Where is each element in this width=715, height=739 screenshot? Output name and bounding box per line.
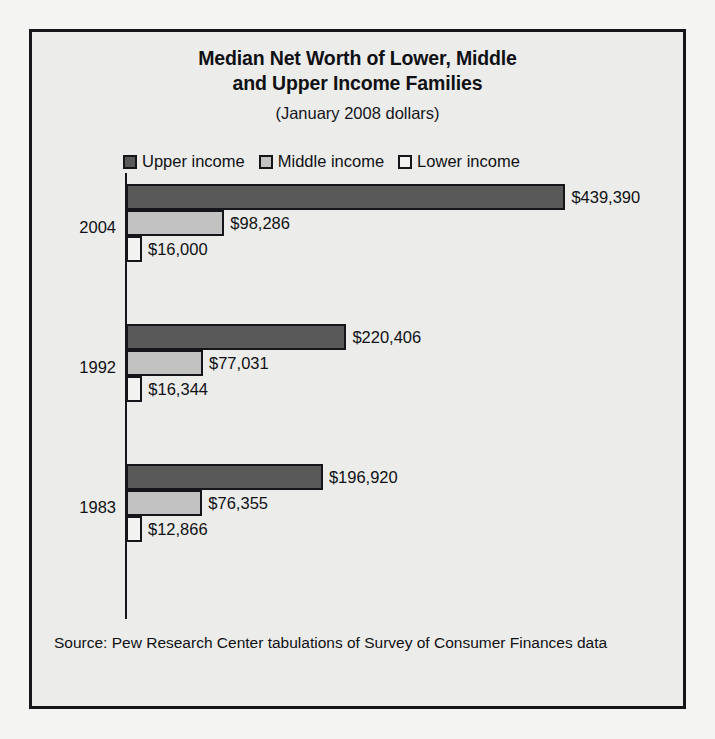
bar-row: $16,000 bbox=[126, 236, 208, 262]
bar-row: $439,390 bbox=[126, 184, 640, 210]
bar-1992-upper[interactable] bbox=[126, 324, 346, 350]
year-label-1992: 1992 bbox=[32, 358, 116, 377]
bar-value-label: $439,390 bbox=[571, 188, 640, 207]
year-label-2004: 2004 bbox=[32, 218, 116, 237]
bar-value-label: $16,344 bbox=[148, 380, 208, 399]
plot-area: 2004$439,390$98,286$16,0001992$220,406$7… bbox=[32, 32, 683, 706]
bar-row: $16,344 bbox=[126, 376, 208, 402]
page-background: Median Net Worth of Lower, Middle and Up… bbox=[0, 0, 715, 739]
source-note: Source: Pew Research Center tabulations … bbox=[54, 632, 664, 653]
bar-row: $12,866 bbox=[126, 516, 208, 542]
bar-value-label: $77,031 bbox=[209, 354, 269, 373]
bar-2004-middle[interactable] bbox=[126, 210, 224, 236]
bar-row: $196,920 bbox=[126, 464, 398, 490]
bar-row: $220,406 bbox=[126, 324, 421, 350]
bar-value-label: $220,406 bbox=[352, 328, 421, 347]
bar-1992-middle[interactable] bbox=[126, 350, 203, 376]
bar-value-label: $76,355 bbox=[208, 494, 268, 513]
bar-value-label: $98,286 bbox=[230, 214, 290, 233]
bar-value-label: $196,920 bbox=[329, 468, 398, 487]
year-label-1983: 1983 bbox=[32, 498, 116, 517]
bar-1983-lower[interactable] bbox=[126, 516, 142, 542]
bar-row: $76,355 bbox=[126, 490, 268, 516]
bar-value-label: $12,866 bbox=[148, 520, 208, 539]
bar-2004-upper[interactable] bbox=[126, 184, 565, 210]
bar-value-label: $16,000 bbox=[148, 240, 208, 259]
bar-2004-lower[interactable] bbox=[126, 236, 142, 262]
bar-row: $98,286 bbox=[126, 210, 290, 236]
bar-1992-lower[interactable] bbox=[126, 376, 142, 402]
chart-figure: Median Net Worth of Lower, Middle and Up… bbox=[29, 29, 686, 709]
bar-row: $77,031 bbox=[126, 350, 269, 376]
bar-1983-middle[interactable] bbox=[126, 490, 202, 516]
bar-1983-upper[interactable] bbox=[126, 464, 323, 490]
